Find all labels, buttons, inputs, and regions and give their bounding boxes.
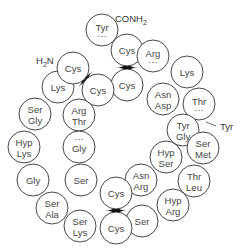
residue-gly: Gly	[17, 164, 49, 196]
ellipsis-marker: ···	[194, 104, 204, 115]
residue-label: Ser	[135, 216, 150, 227]
residue-label: Cys	[119, 80, 136, 91]
residue-label: Hyp	[16, 137, 33, 148]
residue-label: Ser	[73, 216, 88, 227]
residue-cys: Cys	[57, 52, 89, 84]
ellipsis-marker: ···	[97, 30, 107, 41]
residue-label: Cys	[65, 63, 82, 74]
residue-label: Hyp	[158, 147, 175, 158]
residue-cys: Cys	[100, 177, 132, 209]
residue-label: Ser	[159, 158, 174, 169]
residue-label: Cys	[108, 188, 125, 199]
residue-label: Asn	[133, 170, 149, 181]
residue-label: Lys	[51, 82, 66, 93]
residue-label: Arg	[72, 105, 87, 116]
residue-label: Arg	[166, 206, 181, 217]
residue-asn-asp: AsnAsp	[147, 83, 179, 115]
residue-label: Gly	[28, 115, 43, 126]
residue-label: Cys	[119, 45, 136, 56]
residue-ser-lys: SerLys	[64, 210, 96, 242]
residue-label: Gly	[26, 175, 41, 186]
residue-label: Thr	[72, 116, 86, 127]
residue-label: Lys	[180, 67, 195, 78]
residue-label: Tyr	[176, 120, 189, 131]
residue-ser: Ser	[65, 164, 97, 196]
residue-label: Cys	[90, 85, 107, 96]
residue-lys: Lys	[171, 56, 203, 88]
n-terminus-label: H2N	[36, 55, 54, 68]
residue-arg-thr: ArgThr	[63, 99, 95, 131]
residue-ser-gly: SerGly	[19, 98, 51, 130]
residue-gly: Gly···	[63, 131, 95, 163]
residue-label: Thr	[187, 171, 201, 182]
residue-label: Gly	[72, 143, 87, 154]
residue-label: Ser	[45, 198, 60, 209]
residue-label: Lys	[17, 148, 32, 159]
residue-label: Leu	[186, 182, 202, 193]
ellipsis-marker: ···	[148, 56, 158, 67]
residue-label: Hyp	[165, 195, 182, 206]
residue-label: Arg	[134, 181, 149, 192]
residue-label: Cys	[108, 223, 125, 234]
residue-label: Asp	[155, 100, 171, 111]
c-terminus-label: CONH2	[115, 13, 147, 26]
residue-ser-met: SerMet	[187, 132, 219, 164]
residue-label: Asn	[155, 89, 171, 100]
residue-label: Met	[195, 149, 211, 160]
residue-label: Gly	[176, 131, 191, 142]
residue-arg: Arg···	[137, 40, 169, 72]
residue-label: Ser	[196, 138, 211, 149]
residue-label: Ser	[74, 175, 89, 186]
residue-hyp-lys: HypLys	[8, 131, 40, 163]
residue-hyp-arg: HypArg	[157, 189, 189, 221]
residue-hyp-ser: HypSer	[150, 141, 182, 173]
ellipsis-marker: ···	[74, 133, 84, 144]
residue-ser-ala: SerAla	[36, 192, 68, 224]
residue-label: Lys	[73, 227, 88, 238]
residue-label: Ser	[28, 104, 43, 115]
residue-label: Ala	[45, 209, 59, 220]
residue-cys: Cys	[111, 69, 143, 101]
side-chain-pointer	[206, 122, 216, 126]
residue-cys: Cys	[100, 212, 132, 244]
side-chain-label: Tyr	[220, 121, 233, 132]
peptide-ring-diagram: Tyr···CysCysArg···LysThr···AsnAspTyrGlyS…	[0, 0, 247, 251]
